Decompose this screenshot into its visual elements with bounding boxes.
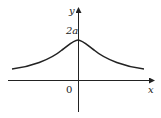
diagram-canvas: y x 0 2a: [0, 0, 161, 118]
x-axis-label: x: [148, 84, 154, 95]
origin-label: 0: [66, 84, 72, 95]
peak-label: 2a: [65, 25, 78, 36]
y-axis-label: y: [68, 5, 75, 16]
